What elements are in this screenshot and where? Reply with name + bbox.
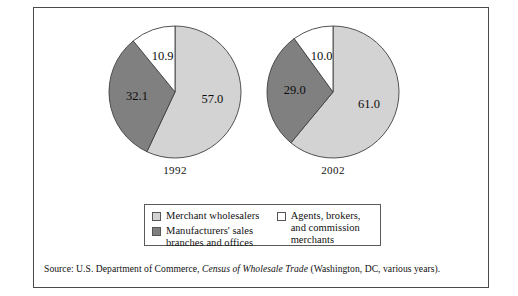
- legend-label-manufacturers-branches: Manufacturers' sales branches and office…: [166, 225, 277, 249]
- pie-slice-value-label: 29.0: [284, 83, 306, 97]
- legend-item-agents-brokers: Agents, brokers, and commission merchant…: [277, 210, 374, 245]
- pie-chart-group: 57.032.110.9199261.029.010.02002: [34, 8, 488, 198]
- pie-chart-1992: 57.032.110.91992: [105, 22, 245, 176]
- pie-slice-value-label: 32.1: [126, 89, 148, 103]
- pie-year-label: 2002: [263, 164, 403, 176]
- figure-frame: 57.032.110.9199261.029.010.02002 Merchan…: [33, 7, 489, 288]
- source-suffix: (Washington, DC, various years).: [308, 263, 440, 274]
- pie-chart-2002: 61.029.010.02002: [263, 22, 403, 176]
- legend-swatch-manufacturers-branches: [152, 227, 161, 236]
- source-prefix: Source: U.S. Department of Commerce,: [44, 263, 202, 274]
- legend-swatch-merchant-wholesalers: [152, 212, 161, 221]
- legend-label-agents-brokers: Agents, brokers, and commission merchant…: [291, 210, 374, 245]
- legend-item-merchant-wholesalers: Merchant wholesalers: [152, 210, 277, 222]
- pie-svg-1992: 57.032.110.9: [105, 22, 245, 162]
- legend-column-left: Merchant wholesalers Manufacturers' sale…: [152, 210, 277, 248]
- pie-year-label: 1992: [105, 164, 245, 176]
- legend-column-right: Agents, brokers, and commission merchant…: [277, 210, 374, 245]
- legend-item-manufacturers-branches: Manufacturers' sales branches and office…: [152, 225, 277, 249]
- pie-slice-value-label: 61.0: [358, 97, 380, 111]
- legend-swatch-agents-brokers: [277, 212, 286, 221]
- source-publication-title: Census of Wholesale Trade: [202, 263, 308, 274]
- source-note: Source: U.S. Department of Commerce, Cen…: [44, 263, 440, 274]
- legend-label-merchant-wholesalers: Merchant wholesalers: [166, 210, 259, 222]
- pie-slice-value-label: 57.0: [201, 92, 223, 106]
- chart-legend: Merchant wholesalers Manufacturers' sale…: [144, 204, 381, 246]
- pie-slice-value-label: 10.0: [311, 49, 333, 63]
- pie-svg-2002: 61.029.010.0: [263, 22, 403, 162]
- pie-slice-value-label: 10.9: [152, 49, 174, 63]
